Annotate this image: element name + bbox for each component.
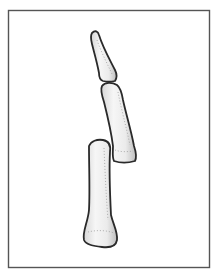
- bone-illustration: [0, 0, 223, 277]
